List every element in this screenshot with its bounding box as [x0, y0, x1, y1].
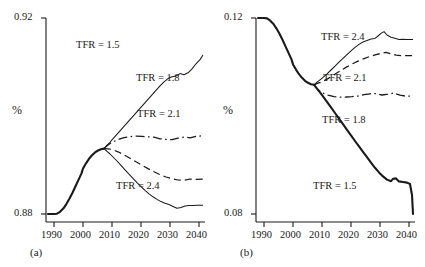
x-tick-label-2030-a: 2030	[157, 229, 178, 240]
x-tick-label-2010-b: 2010	[309, 229, 330, 240]
series-annotation-tfr-1-8-a: TFR = 1.8	[136, 72, 180, 83]
series-tfr-2-4-a	[104, 149, 203, 209]
x-tick-label-2010-a: 2010	[99, 229, 120, 240]
x-tick-label-2000-b: 2000	[280, 229, 301, 240]
panel-a: 0.92 0.88 % 1990 2000 2010 2020 2030 204…	[0, 0, 212, 267]
two-panel-figure: 0.92 0.88 % 1990 2000 2010 2020 2030 204…	[0, 0, 425, 267]
y-tick-label-bottom-a: 0.88	[14, 207, 32, 218]
series-annotation-tfr-2-1-b: TFR = 2.1	[323, 72, 367, 83]
series-annotation-tfr-1-8-b: TFR = 1.8	[322, 114, 366, 125]
panel-b-plot	[212, 0, 425, 267]
x-ticks-a	[54, 222, 199, 227]
y-axis-title-b: %	[223, 103, 233, 118]
x-tick-label-2040-b: 2040	[396, 229, 417, 240]
series-tfr-1-5-b	[314, 85, 413, 214]
series-annotation-tfr-2-1-a: TFR = 2.1	[137, 108, 181, 119]
series-historical-b	[258, 18, 314, 85]
x-tick-label-2030-b: 2030	[367, 229, 388, 240]
y-tick-label-bottom-b: 0.08	[224, 207, 242, 218]
panel-caption-b: (b)	[240, 246, 253, 258]
x-tick-label-2020-b: 2020	[338, 229, 359, 240]
series-tfr-2-1-a	[104, 149, 203, 181]
series-tfr-1-5-a	[104, 55, 203, 149]
y-tick-label-top-a: 0.92	[14, 11, 32, 22]
x-ticks-b	[264, 222, 409, 227]
series-tfr-1-8-a	[104, 136, 203, 149]
x-tick-label-1990-b: 1990	[251, 229, 272, 240]
series-historical-a	[48, 149, 104, 214]
y-tick-label-top-b: 0.12	[224, 11, 242, 22]
y-axis-title-a: %	[12, 103, 22, 118]
series-tfr-1-8-b	[314, 85, 413, 97]
x-tick-label-2020-a: 2020	[128, 229, 149, 240]
series-annotation-tfr-1-5-a: TFR = 1.5	[76, 39, 120, 50]
series-annotation-tfr-2-4-a: TFR = 2.4	[116, 180, 160, 191]
panel-caption-a: (a)	[30, 246, 42, 258]
panel-b: 0.12 0.08 % 1990 2000 2010 2020 2030 204…	[212, 0, 425, 267]
series-annotation-tfr-1-5-b: TFR = 1.5	[313, 180, 357, 191]
x-tick-label-2000-a: 2000	[70, 229, 91, 240]
x-tick-label-2040-a: 2040	[186, 229, 207, 240]
x-tick-label-1990-a: 1990	[41, 229, 62, 240]
series-annotation-tfr-2-4-b: TFR = 2.4	[321, 31, 365, 42]
